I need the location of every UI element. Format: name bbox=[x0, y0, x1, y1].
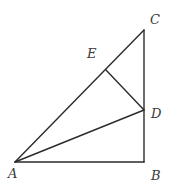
segment-ad bbox=[15, 110, 144, 162]
label-c: C bbox=[150, 12, 160, 27]
label-b: B bbox=[150, 168, 161, 183]
geometry-diagram: C E D A B bbox=[0, 0, 171, 184]
label-d: D bbox=[150, 106, 162, 121]
label-e: E bbox=[86, 46, 97, 61]
segment-de bbox=[106, 70, 144, 110]
segment-ac bbox=[15, 30, 144, 162]
label-a: A bbox=[7, 166, 17, 181]
